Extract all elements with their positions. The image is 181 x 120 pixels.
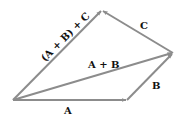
vector-addition-diagram: A B C A + B (A + B) + C (0, 0, 181, 120)
label-a: A (63, 105, 72, 116)
label-c: C (140, 20, 148, 31)
label-sum: (A + B) + C (39, 10, 92, 63)
label-b: B (152, 80, 160, 91)
vector-b-arrow (127, 54, 172, 100)
label-a-plus-b: A + B (87, 59, 120, 70)
vector-c-arrow (103, 11, 173, 53)
